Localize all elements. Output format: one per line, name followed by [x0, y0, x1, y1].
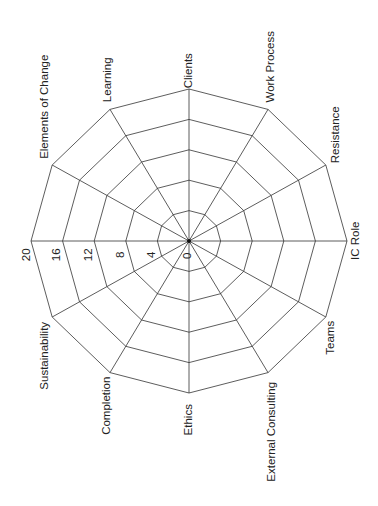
- axis-label-teams: Teams: [325, 313, 337, 363]
- axis-label-ethics: Ethics: [183, 395, 195, 445]
- tick-label-4: 4: [146, 243, 158, 267]
- axis-label-work-process: Work Process: [265, 27, 277, 107]
- axis-label-completion: Completion: [101, 373, 113, 439]
- tick-label-20: 20: [21, 243, 33, 267]
- axis-label-external-consulting: External Consulting: [266, 374, 278, 490]
- tick-label-8: 8: [115, 243, 127, 267]
- axis-label-sustainability: Sustainability: [39, 316, 51, 396]
- axis-label-ic-role: IC Role: [350, 216, 362, 266]
- axis-label-resistance: Resistance: [330, 102, 342, 168]
- tick-label-16: 16: [51, 243, 63, 267]
- grid-spoke: [189, 165, 326, 241]
- grid-spoke: [189, 241, 268, 373]
- tick-label-0: 0: [182, 244, 194, 268]
- grid-spoke: [52, 165, 189, 241]
- axis-label-learning: Learning: [102, 52, 114, 108]
- grid-spoke: [110, 109, 189, 241]
- grid-spoke: [189, 109, 268, 241]
- tick-label-12: 12: [83, 243, 95, 267]
- axis-label-clients: Clients: [183, 45, 195, 97]
- axis-label-elements-of-change: Elements of Change: [39, 45, 51, 169]
- grid-spoke: [189, 241, 326, 317]
- center-point: [187, 239, 191, 243]
